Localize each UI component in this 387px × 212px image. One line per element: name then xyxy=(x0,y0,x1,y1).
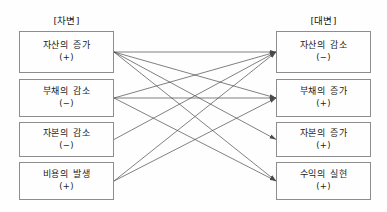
connection-2-to-0 xyxy=(114,52,276,140)
diagram-canvas: [차변] [대변] 자산의 증가(+)부채의 감소(−)자본의 감소(−)비용의… xyxy=(0,0,387,212)
credit-node-3[interactable]: 수익의 실현(+) xyxy=(276,162,371,200)
credit-node-1-label: 부채의 증가 xyxy=(300,86,348,98)
credit-node-2-label: 자본의 증가 xyxy=(300,128,348,140)
debit-node-0[interactable]: 자산의 증가(+) xyxy=(19,31,114,73)
debit-node-2-sign: (−) xyxy=(59,140,73,151)
debit-node-0-sign: (+) xyxy=(59,52,73,63)
credit-node-2-sign: (+) xyxy=(316,140,330,151)
credit-node-0-sign: (−) xyxy=(316,52,330,63)
connection-1-to-3 xyxy=(114,98,276,181)
debit-node-2[interactable]: 자본의 감소(−) xyxy=(19,122,114,157)
credit-node-0-label: 자산의 감소 xyxy=(300,40,348,52)
credit-node-3-label: 수익의 실현 xyxy=(300,169,348,181)
credit-node-0[interactable]: 자산의 감소(−) xyxy=(276,31,371,73)
credit-node-2[interactable]: 자본의 증가(+) xyxy=(276,122,371,157)
connection-3-to-0 xyxy=(114,52,276,181)
connection-1-to-0 xyxy=(114,52,276,98)
debit-node-2-label: 자본의 감소 xyxy=(43,128,91,140)
connection-0-to-1 xyxy=(114,52,276,98)
debit-node-1-sign: (−) xyxy=(59,98,73,109)
credit-node-1-sign: (+) xyxy=(316,98,330,109)
connection-3-to-1 xyxy=(114,98,276,181)
column-header-credit: [대변] xyxy=(276,13,371,27)
credit-node-3-sign: (+) xyxy=(316,181,330,192)
credit-node-1[interactable]: 부채의 증가(+) xyxy=(276,79,371,117)
debit-node-3-sign: (+) xyxy=(59,181,73,192)
debit-node-1[interactable]: 부채의 감소(−) xyxy=(19,79,114,117)
connection-0-to-3 xyxy=(114,52,276,181)
connection-0-to-2 xyxy=(114,52,276,140)
debit-node-3-label: 비용의 발생 xyxy=(43,169,91,181)
debit-node-1-label: 부채의 감소 xyxy=(43,86,91,98)
debit-node-0-label: 자산의 증가 xyxy=(43,40,91,52)
debit-node-3[interactable]: 비용의 발생(+) xyxy=(19,162,114,200)
column-header-debit: [차변] xyxy=(19,13,114,27)
